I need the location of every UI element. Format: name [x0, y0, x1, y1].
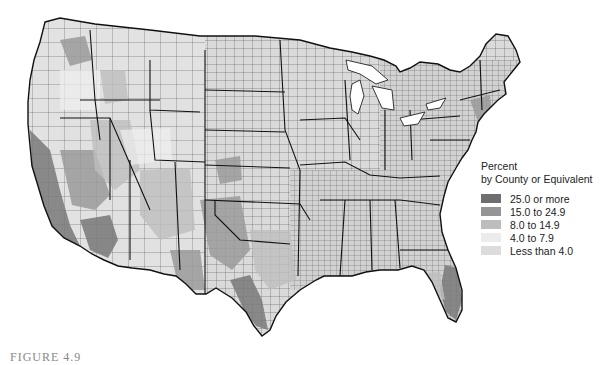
- legend-item: Less than 4.0: [481, 244, 601, 257]
- legend-title-line2: by County or Equivalent: [481, 173, 601, 186]
- legend-label: 25.0 or more: [510, 193, 570, 205]
- legend-label: Less than 4.0: [510, 245, 573, 257]
- legend-swatch: [481, 246, 501, 255]
- figure-caption: FIGURE 4.9: [10, 350, 81, 365]
- legend-label: 8.0 to 14.9: [510, 219, 560, 231]
- legend-item: 25.0 or more: [481, 192, 601, 205]
- legend-label: 4.0 to 7.9: [510, 232, 554, 244]
- legend-swatch: [481, 220, 501, 229]
- legend-label: 15.0 to 24.9: [510, 206, 565, 218]
- legend-items: 25.0 or more 15.0 to 24.9 8.0 to 14.9 4.…: [481, 192, 601, 257]
- map-legend: Percent by County or Equivalent 25.0 or …: [481, 160, 601, 257]
- legend-title-line1: Percent: [481, 160, 601, 173]
- legend-item: 8.0 to 14.9: [481, 218, 601, 231]
- legend-swatch: [481, 207, 501, 216]
- legend-item: 4.0 to 7.9: [481, 231, 601, 244]
- legend-item: 15.0 to 24.9: [481, 205, 601, 218]
- legend-swatch: [481, 233, 501, 242]
- legend-swatch: [481, 194, 501, 203]
